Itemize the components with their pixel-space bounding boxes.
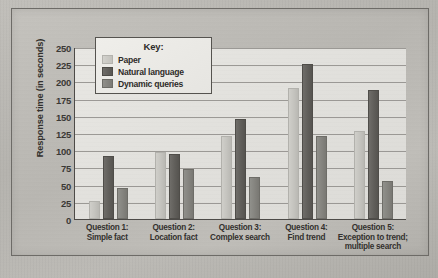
bar [302,64,313,219]
legend-label: Natural language [118,67,184,77]
x-category-label-line: Exception to trend; [328,233,418,243]
legend-title: Key: [96,41,211,52]
scanned-page: Response time (in seconds) 0255075100125… [0,0,438,278]
bar [103,156,114,219]
y-tick-label: 50 [61,180,71,191]
bar [288,88,299,219]
legend-entry: Paper [102,54,211,65]
legend-entry: Dynamic queries [102,78,211,89]
y-tick-label: 125 [56,129,71,140]
bar [117,188,128,219]
figure-caption-cropped [14,266,344,278]
figure-frame: Response time (in seconds) 0255075100125… [11,8,429,256]
y-tick-label: 25 [61,197,71,208]
y-tick-label: 175 [56,94,71,105]
y-tick-label: 75 [61,163,71,174]
legend-swatch-icon [102,67,113,76]
x-category-label-line: multiple search [328,242,418,252]
bar-group [341,48,407,219]
legend-label: Dynamic queries [118,79,183,89]
y-tick-label: 100 [56,146,71,157]
y-tick-label: 225 [56,60,71,71]
y-tick-label: 200 [56,77,71,88]
y-tick-label: 250 [56,43,71,54]
bar-group [274,48,340,219]
legend-entry: Natural language [102,66,211,77]
x-category-label-line: Question 5: [328,223,418,233]
bar [169,154,180,219]
bar [155,152,166,219]
x-category-label: Question 5:Exception to trend;multiple s… [328,223,418,252]
bar [89,201,100,219]
legend-label: Paper [118,55,141,65]
bar [316,136,327,219]
bar [221,136,232,219]
bar [368,90,379,219]
bar-group [208,48,274,219]
bar [249,177,260,219]
legend-entries: PaperNatural languageDynamic queries [96,54,211,89]
bar [382,181,393,219]
y-tick-label: 150 [56,111,71,122]
legend-swatch-icon [102,55,113,64]
bar [183,169,194,219]
legend: Key: PaperNatural languageDynamic querie… [95,37,212,94]
x-axis-category-labels: Question 1:Simple factQuestion 2:Locatio… [74,223,406,255]
bar [235,119,246,219]
legend-swatch-icon [102,79,113,88]
bar [354,131,365,219]
y-axis-tick-labels: 0255075100125150175200225250 [38,48,71,220]
